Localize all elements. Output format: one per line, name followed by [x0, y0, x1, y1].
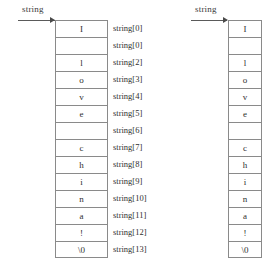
- array-index-label: string[0]: [113, 37, 173, 54]
- right-pointer-label: string: [195, 4, 217, 14]
- right-array-cell: v: [229, 89, 261, 106]
- left-array-cell: l: [56, 55, 107, 72]
- array-index-label: string[2]: [113, 54, 173, 71]
- right-array-cell: n: [229, 191, 261, 208]
- left-array-cell: v: [56, 89, 107, 106]
- array-index-label: string[7]: [113, 139, 173, 156]
- left-array-cell: a: [56, 208, 107, 225]
- left-array-cell: n: [56, 191, 107, 208]
- right-array-cell: l: [229, 55, 261, 72]
- right-pointer-line: [191, 20, 227, 21]
- right-array-cell: a: [229, 208, 261, 225]
- right-array-cell: e: [229, 106, 261, 123]
- left-array-cell: [56, 38, 107, 55]
- array-index-label: string[12]: [113, 224, 173, 241]
- left-array-cell: \0: [56, 242, 107, 259]
- array-index-label: string[11]: [113, 207, 173, 224]
- left-character-array: Ilovechina!\0: [55, 20, 108, 258]
- left-array-cell: o: [56, 72, 107, 89]
- array-index-label: string[0]: [113, 20, 173, 37]
- left-array-cell: !: [56, 225, 107, 242]
- array-index-label: string[10]: [113, 190, 173, 207]
- array-index-label: string[4]: [113, 88, 173, 105]
- right-array-cell: i: [229, 174, 261, 191]
- right-array-cell: h: [229, 157, 261, 174]
- left-pointer-label: string: [22, 4, 44, 14]
- left-array-diagram: string Ilovechina!\0 string[0]string[0]s…: [0, 0, 175, 269]
- left-index-label-column: string[0]string[0]string[2]string[3]stri…: [113, 20, 173, 258]
- left-array-cell: i: [56, 174, 107, 191]
- right-array-cell: o: [229, 72, 261, 89]
- left-array-cell: h: [56, 157, 107, 174]
- left-array-cell: e: [56, 106, 107, 123]
- right-array-cell: !: [229, 225, 261, 242]
- right-character-array: Ilovechina!\0: [228, 20, 262, 258]
- right-array-cell: I: [229, 21, 261, 38]
- right-array-diagram: string Ilovechina!\0: [175, 0, 273, 269]
- array-index-label: string[5]: [113, 105, 173, 122]
- left-array-cell: [56, 123, 107, 140]
- right-array-cell: [229, 38, 261, 55]
- array-index-label: string[13]: [113, 241, 173, 258]
- array-index-label: string[8]: [113, 156, 173, 173]
- array-index-label: string[3]: [113, 71, 173, 88]
- left-array-cell: c: [56, 140, 107, 157]
- array-index-label: string[6]: [113, 122, 173, 139]
- array-index-label: string[9]: [113, 173, 173, 190]
- right-array-cell: c: [229, 140, 261, 157]
- left-array-cell: I: [56, 21, 107, 38]
- right-array-cell: \0: [229, 242, 261, 259]
- right-array-cell: [229, 123, 261, 140]
